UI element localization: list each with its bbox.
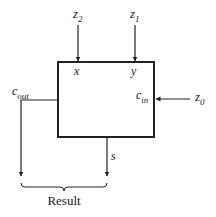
input-z2: z2 xyxy=(72,6,83,61)
port-y: y xyxy=(130,64,137,78)
svg-text:z0: z0 xyxy=(194,89,205,107)
svg-text:s: s xyxy=(111,149,116,163)
port-x: x xyxy=(73,64,80,78)
svg-text:cout: cout xyxy=(12,84,29,101)
adder-diagram: z2 z1 x y cin z0 cout s Result xyxy=(0,0,216,217)
cout-arrow xyxy=(21,100,58,176)
input-z0: z0 xyxy=(156,89,205,107)
svg-text:z2: z2 xyxy=(72,6,83,24)
output-cout: cout xyxy=(12,84,58,176)
output-s: s xyxy=(107,137,116,176)
port-cin: cin xyxy=(136,88,149,105)
result-brace xyxy=(21,183,107,191)
input-z1: z1 xyxy=(129,6,140,61)
svg-text:z1: z1 xyxy=(129,6,140,24)
result-label: Result xyxy=(47,193,81,208)
